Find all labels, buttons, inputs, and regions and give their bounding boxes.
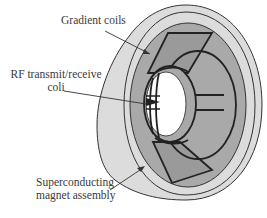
label-magnet: Superconducting magnet assembly xyxy=(36,176,116,202)
label-gradient-coils: Gradient coils xyxy=(61,14,126,27)
label-rf-line2: coli xyxy=(8,81,104,94)
label-rf-line1: RF transmit/receive xyxy=(8,68,104,81)
label-rf-coil: RF transmit/receive coli xyxy=(8,68,104,94)
label-magnet-line1: Superconducting xyxy=(36,176,116,189)
label-magnet-line2: magnet assembly xyxy=(36,189,116,202)
